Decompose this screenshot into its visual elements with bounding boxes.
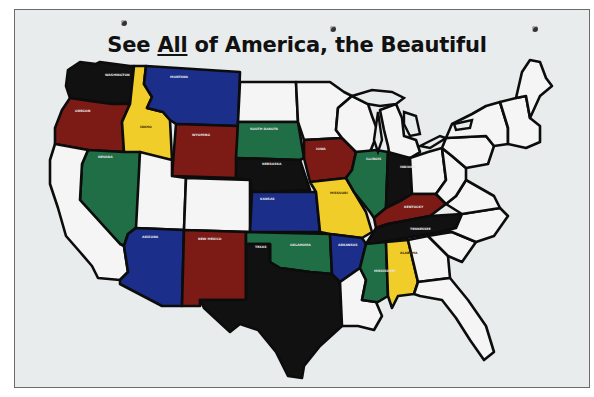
state-piece-new-mexico [182, 230, 246, 306]
state-label-wyoming: WYOMING [192, 133, 210, 137]
lake-huron [404, 112, 420, 136]
state-label-nevada: NEVADA [98, 155, 113, 159]
state-piece-north-dakota [238, 82, 298, 122]
state-label-indiana: INDIANA [400, 165, 416, 169]
state-piece-florida [414, 278, 494, 360]
state-piece-colorado [184, 178, 250, 232]
state-label-kansas: KANSAS [260, 197, 275, 201]
state-label-tennessee: TENNESSEE [410, 227, 431, 231]
state-label-washington: WASHINGTON [105, 73, 130, 77]
state-label-oklahoma: OKLAHOMA [290, 243, 311, 247]
state-label-montana: MONTANA [170, 75, 189, 79]
state-label-illinois: ILLINOIS [366, 157, 382, 161]
state-label-south-dakota: SOUTH DAKOTA [250, 127, 279, 131]
state-label-mississippi: MISSISSIPPI [374, 269, 395, 273]
state-label-kentucky: KENTUCKY [404, 205, 424, 209]
state-label-arizona: ARIZONA [142, 235, 159, 239]
state-label-arkansas: ARKANSAS [338, 243, 358, 247]
state-label-oregon: OREGON [75, 109, 91, 113]
state-label-nebraska: NEBRASKA [262, 162, 282, 166]
state-label-idaho: IDAHO [140, 125, 152, 129]
state-label-missouri: MISSOURI [330, 191, 348, 195]
state-piece-arizona [120, 228, 184, 306]
state-piece-oregon [55, 98, 130, 152]
us-map: WASHINGTONOREGONIDAHOMONTANAWYOMINGNEVAD… [0, 0, 594, 397]
state-label-new-mexico: NEW MEXICO [198, 237, 222, 241]
photo-frame: See All of America, the Beautiful WASHIN… [0, 0, 594, 397]
state-label-alabama: ALABAMA [400, 251, 418, 255]
state-label-texas: TEXAS [255, 245, 267, 249]
state-label-iowa: IOWA [316, 147, 326, 151]
